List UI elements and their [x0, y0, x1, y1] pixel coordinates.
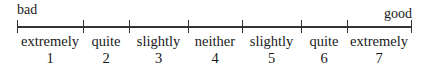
left-anchor-label: bad — [17, 3, 37, 17]
scale-point-value: 1 — [13, 50, 87, 67]
scale-tick — [129, 20, 131, 33]
scale-tick — [301, 20, 303, 33]
scale-point-label: slightly — [238, 33, 305, 50]
scale-point-value: 3 — [125, 50, 192, 67]
scale-tick — [242, 20, 244, 33]
scale-tick — [188, 20, 190, 33]
scale-point-label: extremely — [13, 33, 87, 50]
scale-tick — [83, 20, 85, 33]
scale-tick — [347, 20, 349, 33]
scale-point-3[interactable]: slightly3 — [125, 33, 192, 67]
scale-point-value: 4 — [184, 50, 246, 67]
scale-point-1[interactable]: extremely1 — [13, 33, 87, 67]
scale-axis-line — [17, 26, 412, 28]
scale-point-7[interactable]: extremely7 — [343, 33, 415, 67]
scale-point-5[interactable]: slightly5 — [238, 33, 305, 67]
scale-tick — [411, 20, 413, 33]
right-anchor-label: good — [384, 7, 412, 21]
scale-point-value: 5 — [238, 50, 305, 67]
scale-point-label: extremely — [343, 33, 415, 50]
scale-point-4[interactable]: neither4 — [184, 33, 246, 67]
scale-tick — [17, 20, 19, 33]
scale-point-label: slightly — [125, 33, 192, 50]
scale-point-label: neither — [184, 33, 246, 50]
scale-point-value: 7 — [343, 50, 415, 67]
